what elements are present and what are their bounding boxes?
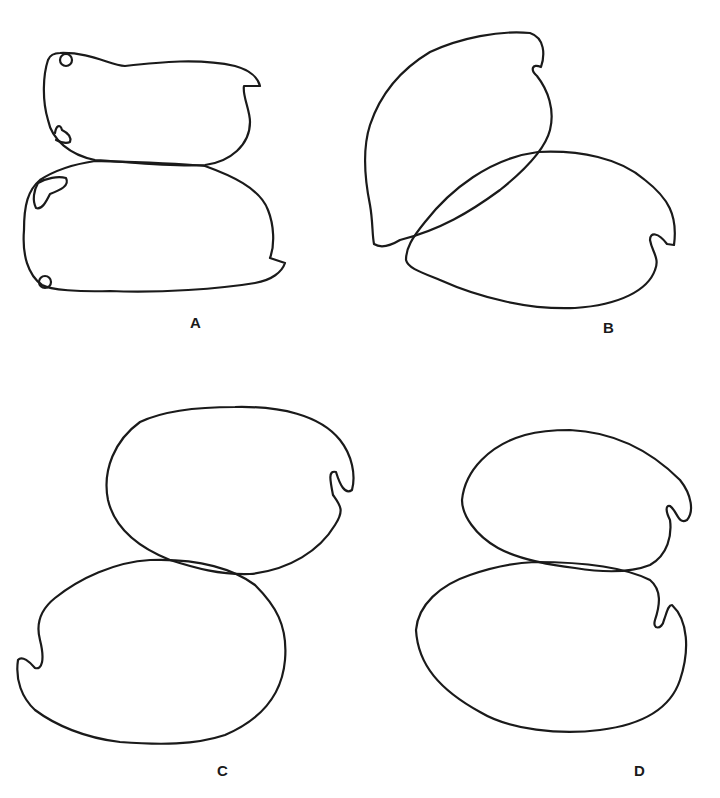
panel-a-lower-lobe (34, 177, 67, 208)
panel-b-upper-outline (365, 32, 552, 246)
figure-canvas (0, 0, 720, 798)
panel-b-lower-outline (406, 152, 675, 309)
panel-b-label: B (603, 319, 614, 336)
panel-d-upper-outline (462, 430, 691, 571)
panel-a-label: A (190, 314, 201, 331)
panel-c (17, 407, 353, 744)
panel-b (365, 32, 675, 308)
panel-a-upper-outline (44, 53, 260, 166)
panel-c-upper-outline (107, 407, 354, 574)
panel-d (416, 430, 691, 732)
panel-c-lower-outline (17, 560, 285, 744)
panel-c-label: C (217, 762, 228, 779)
panel-a-upper-notch-lobe (55, 126, 70, 143)
panel-a-upper-lobe (60, 54, 72, 66)
panel-a-lower-outline (24, 161, 285, 292)
panel-a (24, 53, 285, 292)
panel-d-lower-outline (416, 562, 686, 732)
panel-d-label: D (634, 762, 645, 779)
